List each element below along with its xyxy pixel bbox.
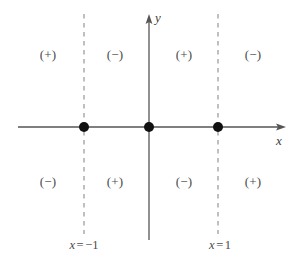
dashed-line-label-x-plus-1: x=1 — [209, 238, 231, 253]
dashed-line-label-value-left: −1 — [85, 238, 98, 252]
sign-chart-figure: y x (+) (−) (+) (−) (−) (+) (−) (+) x=−1… — [0, 0, 293, 271]
dashed-line-label-equals-left: = — [75, 238, 85, 252]
coordinate-plane-svg — [0, 0, 293, 271]
y-axis-label: y — [155, 10, 161, 26]
sign-upper-region-2: (−) — [107, 47, 124, 63]
sign-upper-region-3: (+) — [176, 47, 193, 63]
sign-lower-region-2: (+) — [107, 174, 124, 190]
dashed-line-label-x-minus-1: x=−1 — [70, 238, 99, 253]
critical-point-dot-x-zero — [144, 122, 154, 132]
sign-lower-region-3: (−) — [176, 174, 193, 190]
critical-point-dot-x-plus-1 — [213, 122, 223, 132]
x-axis-label: x — [276, 133, 282, 149]
dashed-line-label-variable-left: x — [70, 238, 76, 252]
dashed-line-label-equals-right: = — [215, 238, 225, 252]
sign-upper-region-4: (−) — [245, 47, 262, 63]
sign-lower-region-4: (+) — [245, 174, 262, 190]
dashed-line-label-variable-right: x — [209, 238, 215, 252]
dashed-line-label-value-right: 1 — [225, 238, 231, 252]
sign-lower-region-1: (−) — [40, 174, 57, 190]
sign-upper-region-1: (+) — [40, 47, 57, 63]
critical-point-dot-x-minus-1 — [79, 122, 89, 132]
